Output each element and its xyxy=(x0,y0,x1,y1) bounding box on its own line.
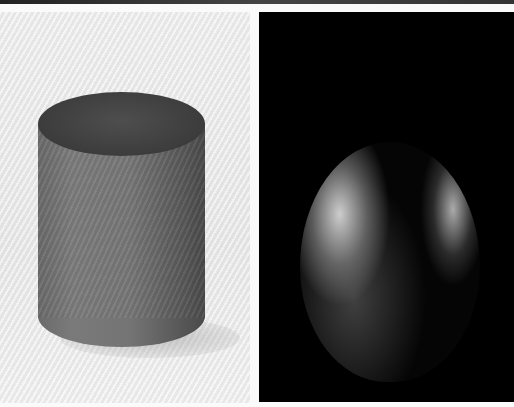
top-border xyxy=(0,0,514,4)
cylinder-top xyxy=(38,92,205,156)
wooden-egg xyxy=(300,142,480,382)
